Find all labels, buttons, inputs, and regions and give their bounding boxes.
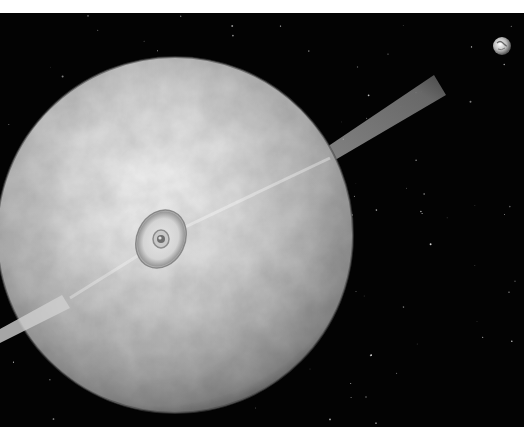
image-frame: Rendered scene of a large pale asteroid-… (0, 13, 524, 427)
space-scene (0, 13, 524, 427)
earth (493, 37, 511, 55)
beam-upper (318, 75, 446, 163)
